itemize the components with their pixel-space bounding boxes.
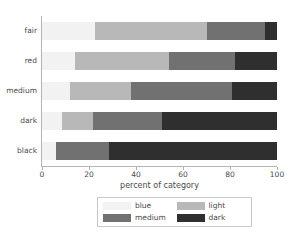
legend-label-light: light [209,202,226,210]
category-label-black: black [17,147,37,155]
bar-segment-fair-dark [265,22,277,40]
bar-segment-fair-light [95,22,207,40]
x-tick-label-40: 40 [131,171,141,179]
bar-segment-medium-dark [232,82,277,100]
legend-entry-medium: medium [103,213,173,223]
x-axis-label: percent of category [42,182,277,190]
bar-row: black [42,142,277,160]
bar-segment-fair-blue [42,22,95,40]
legend-entry-dark: dark [177,213,247,223]
bar-segment-black-blue [42,142,56,160]
legend-swatch-blue [103,202,131,210]
category-label-medium: medium [6,87,37,95]
legend-entry-light: light [177,201,247,211]
bar-segment-medium-medium [131,82,232,100]
bar-segment-black-medium [56,142,109,160]
x-tick-label-100: 100 [270,171,284,179]
bar-row: medium [42,82,277,100]
bar-row: dark [42,112,277,130]
bar-segment-red-light [75,52,169,70]
legend-label-dark: dark [209,214,226,222]
chart-legend: bluelightmediumdark [97,197,252,227]
bar-segment-black-dark [109,142,277,160]
bar-row: red [42,52,277,70]
legend-entry-blue: blue [103,201,173,211]
x-axis-spine [41,166,277,167]
legend-swatch-light [177,202,205,210]
bar-segment-red-dark [235,52,277,70]
bar-segment-dark-medium [93,112,162,130]
bar-segment-red-blue [42,52,75,70]
legend-label-blue: blue [135,202,151,210]
x-tick-label-60: 60 [178,171,188,179]
bar-segment-medium-light [70,82,131,100]
bar-segment-dark-light [62,112,93,130]
x-tick-label-0: 0 [40,171,45,179]
bar-segment-red-medium [169,52,235,70]
bar-segment-dark-blue [42,112,62,130]
bar-segment-medium-blue [42,82,70,100]
bar-row: fair [42,22,277,40]
plot-area: fairredmediumdarkblack [42,16,277,166]
legend-swatch-dark [177,214,205,222]
legend-swatch-medium [103,214,131,222]
bar-segment-dark-dark [162,112,277,130]
chart-figure: fairredmediumdarkblack percent of catego… [0,0,298,233]
bar-segment-fair-medium [207,22,266,40]
x-tick-label-80: 80 [225,171,235,179]
category-label-dark: dark [20,117,37,125]
category-label-red: red [25,57,37,65]
category-label-fair: fair [25,27,37,35]
legend-label-medium: medium [135,214,166,222]
x-tick-label-20: 20 [84,171,94,179]
